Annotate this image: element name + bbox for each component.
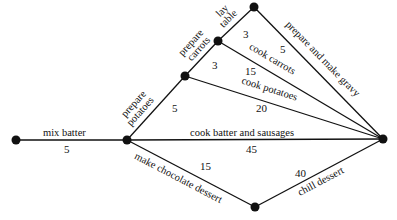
label-make-chocolate-dessert: make chocolate dessert (133, 150, 224, 205)
duration-prepare-potatoes: 5 (172, 102, 178, 114)
node-start (12, 136, 21, 145)
label-mix-batter: mix batter (43, 127, 86, 138)
node-3 (214, 37, 223, 46)
node-end (379, 135, 388, 144)
duration-chill-dessert: 40 (295, 167, 307, 179)
node-4 (250, 3, 259, 12)
edge-chill-dessert (255, 139, 383, 207)
edge-prepare-gravy (254, 7, 383, 139)
node-2 (181, 72, 190, 81)
duration-cook-batter-sausages: 45 (246, 143, 258, 155)
label-cook-batter-sausages: cook batter and sausages (190, 127, 294, 138)
edge-cook-batter-sausages (127, 139, 383, 140)
activity-network-diagram: mix batter 5 prepare potatoes 5 prepare … (0, 0, 397, 220)
duration-prepare-carrots: 3 (212, 59, 218, 71)
node-5 (251, 203, 260, 212)
duration-prepare-gravy: 5 (280, 43, 286, 55)
label-cook-potatoes: cook potatoes (240, 75, 299, 103)
duration-lay-table: 3 (243, 28, 249, 40)
edge-make-chocolate-dessert (127, 140, 255, 207)
duration-make-chocolate-dessert: 15 (200, 160, 212, 172)
duration-mix-batter: 5 (64, 143, 70, 155)
duration-cook-potatoes: 20 (256, 102, 268, 114)
node-1 (123, 136, 132, 145)
